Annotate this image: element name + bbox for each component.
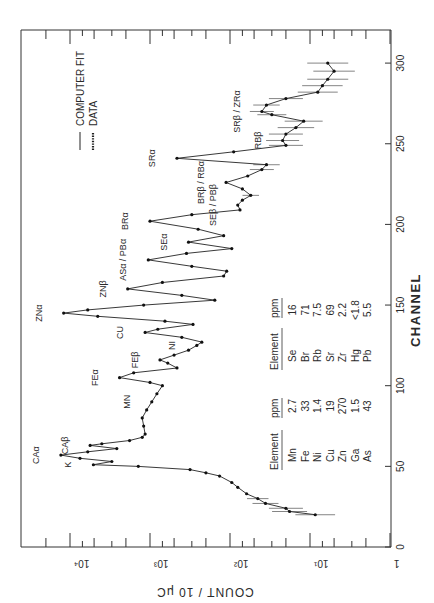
data-point <box>260 168 263 171</box>
data-point <box>270 113 273 116</box>
peak-label: ZNα <box>34 305 44 322</box>
data-point <box>141 416 144 419</box>
data-point <box>147 258 150 261</box>
table-cell: 7.5 <box>312 303 323 317</box>
data-point <box>222 234 225 237</box>
data-point <box>302 120 305 123</box>
data-point <box>284 144 287 147</box>
data-point <box>115 447 118 450</box>
count-tick-label: 10² <box>233 558 248 569</box>
table-rows: Mn2.7Se16Fe33Br71Ni1.4Rb7.5Cu19Sr69Zn270… <box>287 300 373 462</box>
table-cell: As <box>362 450 373 462</box>
table-cell: Ni <box>312 453 323 462</box>
table-cell: 69 <box>325 304 336 316</box>
table-header-element-1: Element <box>269 433 280 470</box>
data-point <box>249 194 252 197</box>
data-point <box>230 481 233 484</box>
data-point <box>225 270 228 273</box>
channel-tick-label: 0 <box>395 544 406 550</box>
data-point <box>86 450 89 453</box>
data-point <box>187 241 190 244</box>
data-point <box>144 432 147 435</box>
peak-label: BRα <box>120 212 130 230</box>
spectrum-chart: 050100150200250300 110¹10²10³10⁴ KCAαCAβ… <box>0 0 434 603</box>
peak-label: SRα <box>147 149 157 167</box>
table-header-ppm-2: ppm <box>269 299 280 318</box>
data-point <box>150 400 153 403</box>
data-point <box>180 336 183 339</box>
table-cell: 33 <box>300 400 311 412</box>
data-point <box>100 442 103 445</box>
data-point <box>132 371 135 374</box>
table-cell: 1.5 <box>350 399 361 413</box>
table-cell: Se <box>287 349 298 362</box>
data-point <box>92 463 95 466</box>
data-point <box>264 502 267 505</box>
peak-label: FEβ <box>130 352 140 369</box>
table-cell: Br <box>300 351 311 362</box>
data-point <box>161 281 164 284</box>
data-point <box>145 408 148 411</box>
data-point <box>204 471 207 474</box>
table-cell: Pb <box>362 349 373 362</box>
data-point <box>284 132 287 135</box>
channel-tick-label: 50 <box>395 460 406 472</box>
peak-label: RBβ <box>253 132 263 150</box>
data-point <box>281 139 284 142</box>
x-axis-title: CHANNEL <box>408 273 423 347</box>
channel-tick-label: 100 <box>395 377 406 394</box>
peak-label: NI <box>167 341 177 350</box>
data-point <box>326 62 329 65</box>
data-point <box>332 70 335 73</box>
peak-label: SEα <box>159 234 169 251</box>
data-point <box>142 303 145 306</box>
peak-label: BRβ / RBα <box>196 161 206 204</box>
channel-tick-label: 300 <box>395 54 406 71</box>
data-point <box>110 460 113 463</box>
data-point <box>166 362 169 365</box>
data-point <box>260 110 263 113</box>
data-point <box>316 91 319 94</box>
table-cell: Fe <box>300 450 311 462</box>
data-point <box>236 203 239 206</box>
data-point <box>161 384 164 387</box>
data-point <box>197 228 200 231</box>
table-cell: 270 <box>337 397 348 414</box>
data-point <box>238 208 241 211</box>
data-point <box>89 444 92 447</box>
peak-label: CAβ <box>60 437 70 455</box>
data-point <box>148 220 151 223</box>
data-point <box>294 126 297 129</box>
data-point <box>175 157 178 160</box>
peak-label: ASα / PBα <box>118 239 128 281</box>
table-cell: 2.2 <box>337 303 348 317</box>
count-tick-label: 10³ <box>153 558 168 569</box>
data-point <box>185 252 188 255</box>
data-point <box>148 381 151 384</box>
channel-tick-label: 150 <box>395 296 406 313</box>
table-cell: 19 <box>325 400 336 412</box>
data-point <box>284 507 287 510</box>
data-point <box>213 299 216 302</box>
data-point <box>155 392 158 395</box>
legend: COMPUTER FIT DATA <box>75 51 99 150</box>
data-point <box>236 486 239 489</box>
data-point <box>62 312 65 315</box>
data-point <box>172 353 175 356</box>
count-tick-label: 1 <box>394 558 400 569</box>
data-point <box>118 376 121 379</box>
data-point <box>163 320 166 323</box>
data-point <box>288 510 291 513</box>
table-cell: Zr <box>337 352 348 362</box>
peak-label: SEβ / PBβ <box>208 184 218 226</box>
count-tick-label: 10¹ <box>313 558 328 569</box>
data-point <box>218 474 221 477</box>
table-cell: Zn <box>337 450 348 462</box>
data-point <box>200 341 203 344</box>
data-point <box>188 468 191 471</box>
data-point <box>265 163 268 166</box>
table-cell: Sr <box>325 351 336 362</box>
data-point <box>142 424 145 427</box>
data-point <box>326 78 329 81</box>
y-axis-title: COUNT / 10 μC <box>156 585 254 599</box>
